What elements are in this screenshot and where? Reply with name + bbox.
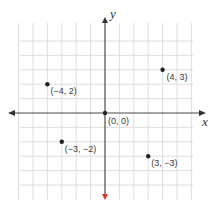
point-marker — [45, 82, 49, 86]
point-label: (−3, −2) — [65, 144, 97, 154]
y-axis-label: y — [108, 6, 116, 21]
y-axis-down-arrow-icon — [102, 194, 108, 200]
x-axis-label: x — [201, 114, 208, 129]
x-axis-left-arrow-icon — [8, 110, 15, 116]
point-marker — [60, 140, 64, 144]
point-marker — [146, 154, 150, 158]
coordinate-plane: x y (0, 0)(4, 3)(−4, 2)(−3, −2)(3, −3) — [0, 0, 217, 216]
points-layer: (0, 0)(4, 3)(−4, 2)(−3, −2)(3, −3) — [45, 68, 187, 169]
point-marker — [103, 111, 107, 115]
y-axis-up-arrow-icon — [102, 17, 108, 23]
point-label: (4, 3) — [167, 72, 188, 82]
point-label: (−4, 2) — [50, 86, 76, 96]
point-marker — [160, 68, 164, 72]
point-label: (3, −3) — [151, 158, 177, 168]
point-label: (0, 0) — [108, 116, 129, 126]
